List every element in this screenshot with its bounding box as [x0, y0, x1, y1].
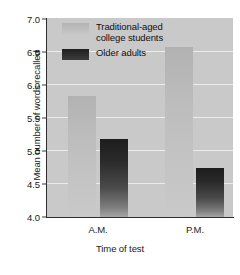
- y-axis-tick-labels: 4.0 4.5 5.0 5.5 6.0 6.5 7.0: [0, 0, 47, 275]
- gridline-6-0: [47, 84, 233, 85]
- y-axis-line: [46, 18, 47, 218]
- y-tick-label-4-5: 4.5: [27, 179, 40, 190]
- x-tick-label-am: A.M.: [88, 224, 107, 235]
- legend-swatch-older-adults: [62, 49, 89, 60]
- bar-chart-figure: Mean number of words recalled 4.0 4.5 5.…: [0, 0, 240, 275]
- x-axis-title: Time of test: [0, 243, 240, 254]
- legend-label-line-1: Traditional-aged: [96, 21, 163, 32]
- bar-pm-older-adults: [196, 168, 224, 217]
- y-tick-label-7-0: 7.0: [27, 14, 40, 25]
- bar-am-traditional-aged: [68, 96, 96, 217]
- bar-pm-traditional-aged: [165, 47, 193, 217]
- y-tick-label-4-0: 4.0: [27, 212, 40, 223]
- chart-legend: Traditional-aged college students Older …: [62, 22, 222, 65]
- legend-label-line-2: college students: [96, 32, 163, 43]
- bar-am-older-adults: [100, 139, 128, 217]
- legend-item-traditional-aged: Traditional-aged college students: [62, 22, 222, 43]
- legend-swatch-traditional-aged: [62, 23, 89, 34]
- y-tick-label-6-0: 6.0: [27, 80, 40, 91]
- legend-label-traditional-aged: Traditional-aged college students: [96, 22, 163, 43]
- legend-item-older-adults: Older adults: [62, 48, 222, 60]
- x-tick-label-pm: P.M.: [186, 224, 204, 235]
- y-tick-label-5-5: 5.5: [27, 113, 40, 124]
- x-axis-line: [46, 217, 234, 218]
- legend-label-older-adults: Older adults: [96, 48, 146, 59]
- y-tick-label-6-5: 6.5: [27, 47, 40, 58]
- y-tick-label-5-0: 5.0: [27, 146, 40, 157]
